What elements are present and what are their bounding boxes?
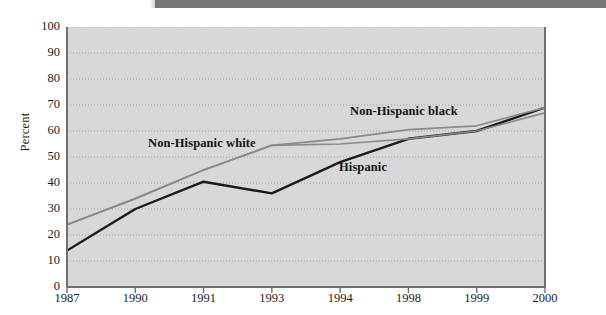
plot-svg	[67, 27, 545, 287]
y-tick-20: 20	[30, 227, 60, 242]
x-tick-2000: 2000	[521, 291, 569, 306]
series-label-non-hispanic-white: Non-Hispanic white	[148, 136, 256, 151]
series-label-hispanic: Hispanic	[339, 160, 387, 175]
series-lines	[67, 108, 545, 251]
x-tick-1999: 1999	[453, 291, 501, 306]
x-tick-1993: 1993	[248, 291, 296, 306]
y-tick-40: 40	[30, 175, 60, 190]
y-tick-90: 90	[30, 45, 60, 60]
x-tick-1990: 1990	[111, 291, 159, 306]
y-tick-60: 60	[30, 123, 60, 138]
x-tick-1994: 1994	[316, 291, 364, 306]
x-tick-1987: 1987	[43, 291, 91, 306]
y-tick-100: 100	[30, 19, 60, 34]
plot-area	[67, 27, 545, 287]
series-label-non-hispanic-black: Non-Hispanic black	[350, 104, 458, 119]
y-tick-30: 30	[30, 201, 60, 216]
y-tick-50: 50	[30, 149, 60, 164]
y-tick-10: 10	[30, 253, 60, 268]
y-tick-80: 80	[30, 71, 60, 86]
line-chart-figure: Percent 0102030405060708090100 198719901…	[0, 0, 606, 315]
x-tick-1998: 1998	[384, 291, 432, 306]
x-tick-1991: 1991	[180, 291, 228, 306]
y-tick-70: 70	[30, 97, 60, 112]
series-line-hispanic	[67, 108, 545, 251]
